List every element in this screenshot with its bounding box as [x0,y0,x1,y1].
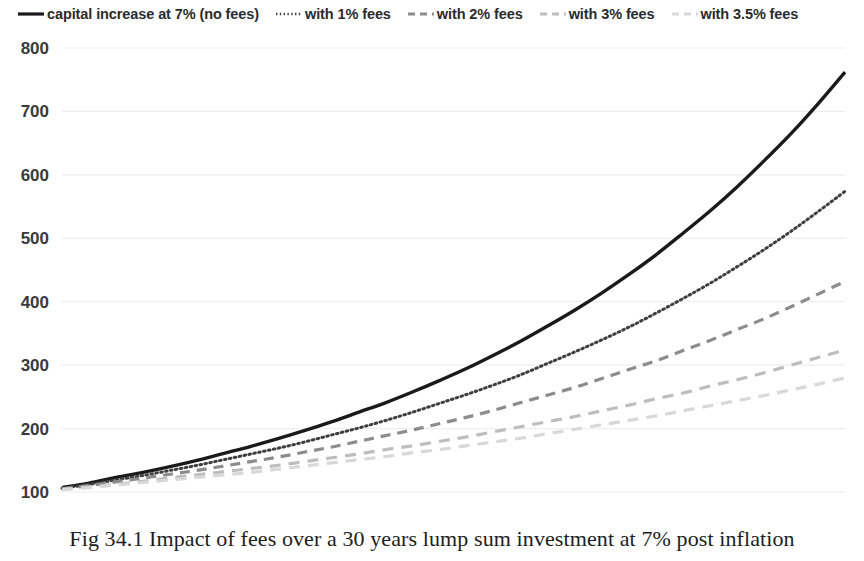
y-axis-tick-label: 500 [21,229,49,248]
chart-legend: capital increase at 7% (no fees)with 1% … [0,0,864,28]
legend-item-label: with 3% fees [569,7,655,22]
y-axis-tick-label: 300 [21,356,49,375]
legend-item[interactable]: capital increase at 7% (no fees) [18,7,259,22]
line-chart-svg: 100200300400500600700800 135791113151719… [0,28,864,506]
y-axis-tick-label: 200 [21,420,49,439]
y-axis-tick-label: 100 [21,483,49,502]
y-axis-tick-label: 800 [21,39,49,58]
legend-item-label: with 3.5% fees [701,7,799,22]
data-series-group [62,72,845,489]
legend-swatch-solid-icon [18,9,44,19]
legend-swatch-dashed-icon [672,9,698,19]
legend-item[interactable]: with 1% fees [276,7,391,22]
figure-caption: Fig 34.1 Impact of fees over a 30 years … [0,526,864,552]
figure-chart-with-caption: capital increase at 7% (no fees)with 1% … [0,0,864,561]
y-axis-tick-label: 600 [21,166,49,185]
legend-swatch-dashed-icon [540,9,566,19]
legend-item-label: capital increase at 7% (no fees) [47,7,259,22]
legend-item-label: with 1% fees [305,7,391,22]
legend-swatch-dotted-icon [276,9,302,19]
y-axis-tick-label: 700 [21,102,49,121]
y-axis-tick-label: 400 [21,293,49,312]
y-axis-tick-labels: 100200300400500600700800 [21,39,49,502]
legend-swatch-dashed-icon [408,9,434,19]
legend-item-label: with 2% fees [437,7,523,22]
legend-item[interactable]: with 2% fees [408,7,523,22]
legend-item[interactable]: with 3% fees [540,7,655,22]
legend-item[interactable]: with 3.5% fees [672,7,799,22]
series-line [62,281,845,488]
plot-area: 100200300400500600700800 135791113151719… [0,28,864,506]
series-line [62,378,845,490]
series-line [62,72,845,487]
gridlines-group [62,48,845,492]
series-line [62,191,845,488]
